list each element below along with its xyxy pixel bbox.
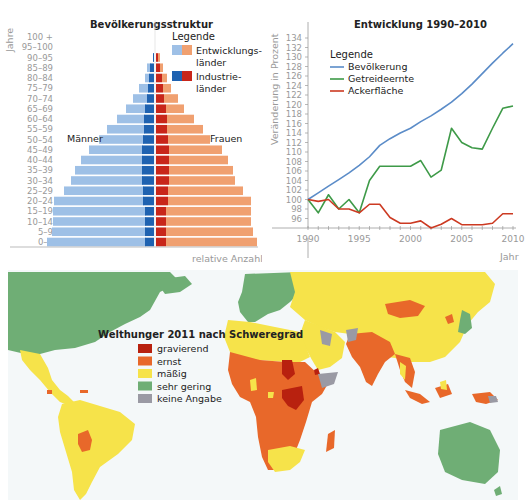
bar-women-developing bbox=[169, 156, 228, 165]
map-legend-swatch bbox=[138, 344, 152, 353]
bar-men-developing bbox=[117, 115, 145, 124]
age-label: 15–19 bbox=[27, 206, 53, 216]
map-legend-label: gravierend bbox=[157, 343, 208, 354]
age-label: 65–69 bbox=[27, 104, 53, 114]
bar-women-developing bbox=[169, 176, 235, 185]
age-label: 95–100 bbox=[22, 42, 53, 52]
bar-men-developing bbox=[89, 145, 143, 154]
y-tick-label: 124 bbox=[286, 81, 302, 91]
bar-men-industrial bbox=[142, 176, 154, 185]
age-label: 25–29 bbox=[27, 186, 53, 196]
bar-men-industrial bbox=[150, 63, 154, 72]
y-tick-label: 100 bbox=[286, 195, 302, 205]
bar-men-industrial bbox=[145, 207, 154, 216]
bar-women-industrial bbox=[156, 166, 169, 175]
linechart-x-ticks: 19901995200020052010 bbox=[297, 226, 525, 244]
legend-label-entwicklung-2: länder bbox=[196, 57, 226, 68]
bar-men-developing bbox=[133, 94, 148, 103]
bar-women-industrial bbox=[156, 125, 167, 134]
bar-men-developing bbox=[99, 135, 144, 144]
y-tick-label: 102 bbox=[286, 185, 302, 195]
map-legend-label: mäßig bbox=[157, 368, 187, 379]
bar-men-industrial bbox=[142, 145, 154, 154]
linechart-svg: Entwicklung 1990–2010 Veränderung in Pro… bbox=[262, 0, 525, 262]
pyramid-age-labels: 0–45–910–1415–1920–2425–2930–3435–3940–4… bbox=[22, 32, 53, 247]
map-legend-swatch bbox=[138, 382, 152, 391]
bar-women-developing bbox=[164, 94, 178, 103]
linechart-title: Entwicklung 1990–2010 bbox=[354, 19, 487, 30]
y-tick-label: 112 bbox=[286, 138, 302, 148]
bar-men-industrial bbox=[147, 94, 154, 103]
development-line-chart: Entwicklung 1990–2010 Veränderung in Pro… bbox=[262, 0, 525, 262]
legend-swatch-industrie-men bbox=[172, 71, 182, 81]
pyramid-legend: Legende Entwicklungs- länder Industrie- … bbox=[172, 31, 262, 94]
label-maenner: Männer bbox=[67, 133, 103, 144]
linechart-legend-title: Legende bbox=[330, 49, 373, 60]
bar-men-industrial bbox=[145, 104, 154, 113]
legend-label-industrie: Industrie- bbox=[196, 71, 241, 82]
bar-men-developing bbox=[139, 84, 149, 93]
bar-women-developing bbox=[169, 145, 222, 154]
age-label: 50–54 bbox=[27, 135, 53, 145]
bar-women-industrial bbox=[156, 186, 168, 195]
map-svg: Welthunger 2011 nach Schweregrad gravier… bbox=[0, 262, 525, 502]
legend-label: Ackerfläche bbox=[348, 85, 404, 96]
line-getreideernte bbox=[308, 106, 513, 213]
bar-men-developing bbox=[75, 166, 143, 175]
bar-men-industrial bbox=[145, 227, 154, 236]
y-tick-label: 118 bbox=[286, 109, 302, 119]
pyramid-title: Bevölkerungsstruktur bbox=[90, 19, 213, 30]
map-title: Welthunger 2011 nach Schweregrad bbox=[98, 329, 303, 340]
y-tick-label: 120 bbox=[286, 100, 302, 110]
age-label: 70–74 bbox=[27, 94, 53, 104]
age-label: 85–89 bbox=[27, 63, 53, 73]
y-tick-label: 134 bbox=[286, 33, 302, 43]
bar-men-developing bbox=[47, 238, 146, 247]
legend-label-industrie-2: länder bbox=[196, 83, 226, 94]
region-gabon bbox=[268, 392, 274, 398]
linechart-x-axis-label: Jahr bbox=[499, 251, 519, 262]
y-tick-label: 122 bbox=[286, 90, 302, 100]
bar-women-developing bbox=[167, 115, 194, 124]
linechart-y-ticks: 9698100102104106108110112114116118120122… bbox=[286, 33, 308, 224]
age-label: 40–44 bbox=[27, 155, 53, 165]
bar-women-developing bbox=[166, 217, 251, 226]
legend-swatch-entwicklung-women bbox=[182, 45, 192, 55]
x-tick-label: 1990 bbox=[297, 234, 320, 244]
y-tick-label: 104 bbox=[286, 176, 302, 186]
bar-men-industrial bbox=[144, 115, 154, 124]
bar-women-industrial bbox=[156, 135, 168, 144]
pyramid-svg: Bevölkerungsstruktur Jahre 0–45–910–1415… bbox=[0, 0, 262, 262]
linechart-series bbox=[308, 44, 513, 228]
map-legend-swatch bbox=[138, 394, 152, 403]
bar-women-developing bbox=[166, 104, 184, 113]
y-tick-label: 110 bbox=[286, 147, 302, 157]
bar-women-industrial bbox=[156, 53, 158, 62]
pyramid-legend-title: Legende bbox=[172, 31, 215, 42]
bar-women-developing bbox=[160, 63, 163, 72]
age-label: 60–64 bbox=[27, 114, 53, 124]
age-label: 80–84 bbox=[27, 73, 53, 83]
bar-women-developing bbox=[169, 166, 233, 175]
bar-women-developing bbox=[158, 53, 160, 62]
bar-women-industrial bbox=[156, 217, 166, 226]
bar-men-industrial bbox=[148, 84, 154, 93]
bar-women-industrial bbox=[156, 94, 164, 103]
bar-women-developing bbox=[168, 197, 251, 206]
x-tick-label: 1995 bbox=[348, 234, 371, 244]
bar-women-industrial bbox=[156, 207, 166, 216]
y-tick-label: 114 bbox=[286, 128, 302, 138]
age-label: 100 + bbox=[27, 32, 53, 42]
age-label: 20–24 bbox=[27, 196, 53, 206]
x-tick-label: 2000 bbox=[399, 234, 422, 244]
map-legend-label: sehr gering bbox=[157, 381, 211, 392]
age-label: 10–14 bbox=[27, 217, 53, 227]
bar-men-developing bbox=[71, 176, 143, 185]
age-label: 5–9 bbox=[38, 227, 53, 237]
legend-label: Getreideernte bbox=[348, 73, 414, 84]
bar-women-industrial bbox=[156, 227, 166, 236]
x-tick-label: 2005 bbox=[450, 234, 473, 244]
label-frauen: Frauen bbox=[210, 133, 242, 144]
map-legend-swatch bbox=[138, 369, 152, 378]
bar-men-industrial bbox=[145, 238, 154, 247]
